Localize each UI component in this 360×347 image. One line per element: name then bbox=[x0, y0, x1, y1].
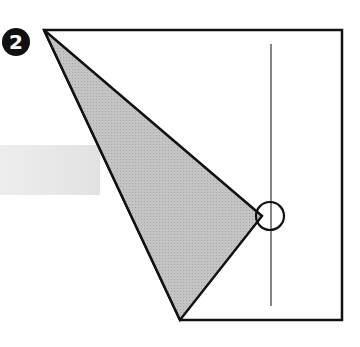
background-band bbox=[0, 145, 100, 195]
step-number-badge: 2 bbox=[2, 28, 30, 56]
origami-diagram bbox=[0, 0, 360, 347]
